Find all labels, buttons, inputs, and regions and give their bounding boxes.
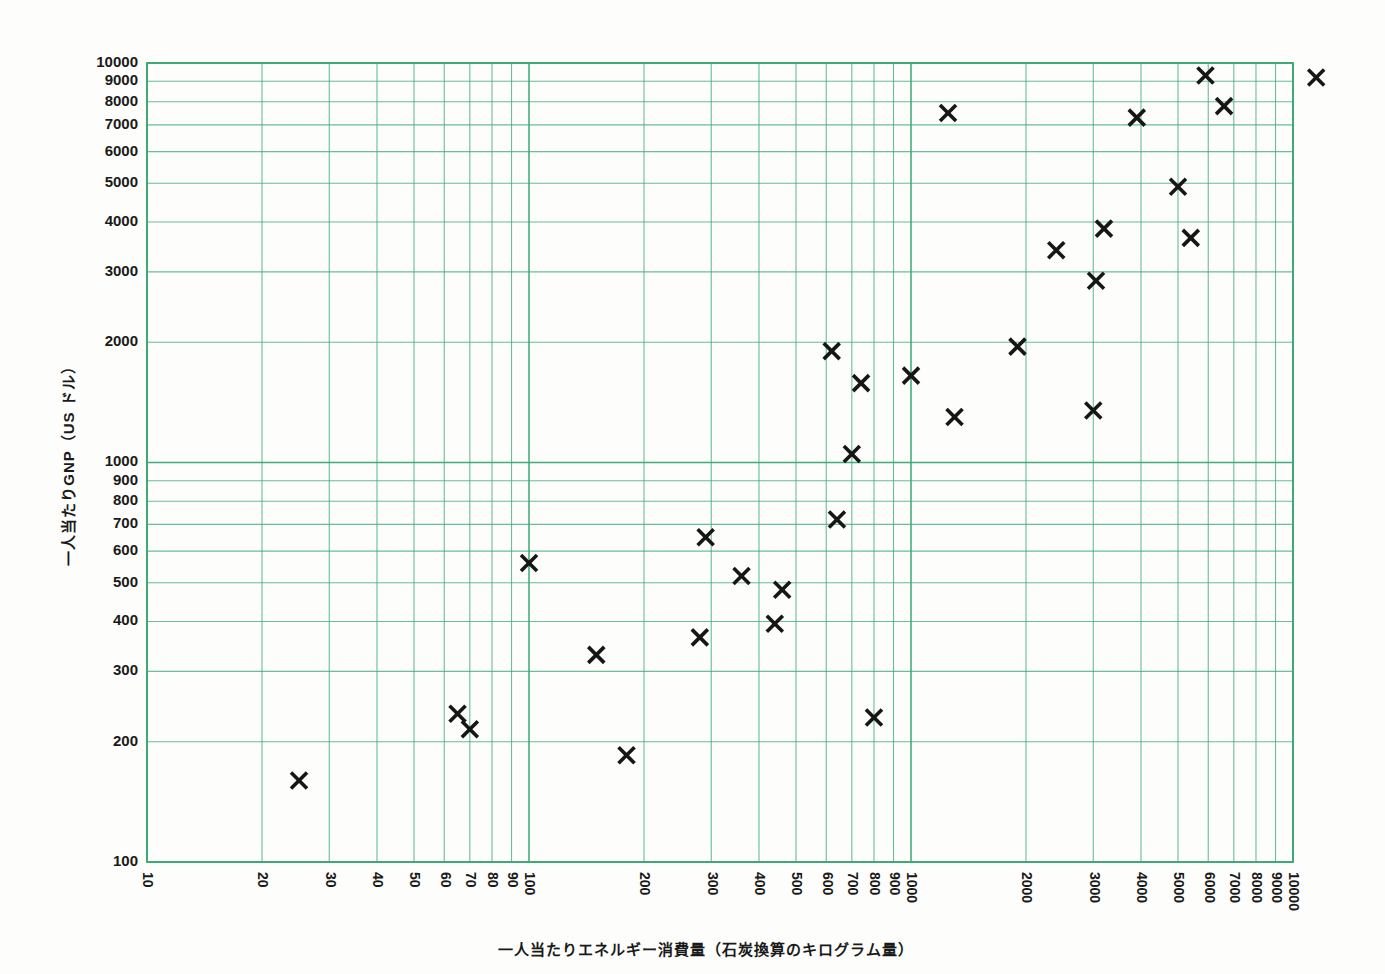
x-tick-label: 5000 — [1171, 872, 1187, 903]
y-tick-label: 5000 — [105, 173, 138, 190]
x-tick-label: 4000 — [1134, 872, 1150, 903]
y-tick-label: 400 — [113, 611, 138, 628]
y-tick-label: 9000 — [105, 71, 138, 88]
x-tick-label: 70 — [463, 872, 479, 888]
x-tick-label: 700 — [845, 872, 861, 896]
x-tick-label: 60 — [438, 872, 454, 888]
x-tick-label: 50 — [407, 872, 423, 888]
figure-background — [0, 0, 1385, 974]
x-tick-label: 900 — [887, 872, 903, 896]
x-tick-label: 80 — [485, 872, 501, 888]
scatter-plot-svg: 1002003004005006007008009001000200030004… — [0, 0, 1385, 974]
x-tick-label: 800 — [867, 872, 883, 896]
x-axis-title: 一人当たりエネルギー消費量（石炭換算のキログラム量） — [498, 941, 914, 958]
x-tick-label: 200 — [637, 872, 653, 896]
y-tick-label: 7000 — [105, 115, 138, 132]
y-tick-label: 500 — [113, 573, 138, 590]
y-tick-label: 4000 — [105, 212, 138, 229]
x-tick-label: 90 — [505, 872, 521, 888]
x-tick-label: 2000 — [1019, 872, 1035, 903]
x-tick-label: 8000 — [1249, 872, 1265, 903]
x-tick-label: 3000 — [1087, 872, 1103, 903]
y-tick-label: 100 — [113, 852, 138, 869]
x-tick-label: 500 — [789, 872, 805, 896]
y-tick-label: 3000 — [105, 262, 138, 279]
x-tick-label: 20 — [255, 872, 271, 888]
y-tick-label: 900 — [113, 471, 138, 488]
y-tick-label: 300 — [113, 661, 138, 678]
y-axis-title: 一人当たりGNP（US ドル） — [60, 358, 77, 566]
x-tick-label: 600 — [820, 872, 836, 896]
grid-lines — [147, 63, 1293, 862]
x-tick-label: 30 — [323, 872, 339, 888]
y-tick-label: 2000 — [105, 332, 138, 349]
y-tick-label: 600 — [113, 541, 138, 558]
x-tick-label: 6000 — [1202, 872, 1218, 903]
x-tick-label: 40 — [370, 872, 386, 888]
y-tick-label: 800 — [113, 491, 138, 508]
y-tick-label: 700 — [113, 514, 138, 531]
x-tick-label: 7000 — [1227, 872, 1243, 903]
x-tick-label: 9000 — [1269, 872, 1285, 903]
x-tick-label: 100 — [522, 872, 538, 896]
x-tick-label: 1000 — [904, 872, 920, 903]
y-tick-label: 200 — [113, 732, 138, 749]
y-tick-label: 10000 — [96, 53, 138, 70]
x-tick-label: 10000 — [1286, 872, 1302, 911]
x-tick-label: 300 — [705, 872, 721, 896]
y-tick-label: 8000 — [105, 92, 138, 109]
chart-figure: 1002003004005006007008009001000200030004… — [0, 0, 1385, 974]
x-tick-label: 400 — [752, 872, 768, 896]
x-tick-label: 10 — [140, 872, 156, 888]
y-tick-label: 1000 — [105, 452, 138, 469]
y-tick-label: 6000 — [105, 142, 138, 159]
